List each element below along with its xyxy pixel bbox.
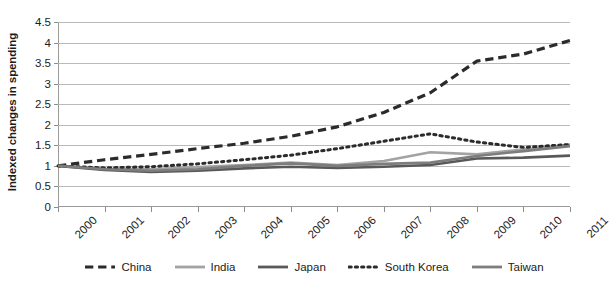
y-axis-tick-label: 0.5 [35,180,51,192]
x-axis-tick [291,207,292,212]
y-axis-tick-label: 3 [45,78,51,90]
y-axis-tick-label: 1 [45,160,51,172]
legend-item-china[interactable]: China [84,261,151,273]
x-axis-tick [384,207,385,212]
y-axis-tick-label: 2 [45,119,51,131]
legend-swatch-solid-icon [174,261,206,273]
legend-swatch-dashed-icon [84,261,116,273]
plot-area: 00.511.522.533.544.5 2000200120022003200… [58,22,570,207]
x-axis-tick [570,207,571,212]
x-axis-tick [151,207,152,212]
y-axis-tick-label: 4.5 [35,16,51,28]
legend-label: China [121,261,151,273]
y-axis-tick-label: 2.5 [35,98,51,110]
x-axis-tick-label: 2008 [445,214,472,241]
x-axis-tick-label: 2002 [166,214,193,241]
cropped-top-text [52,0,92,3]
x-axis-tick-label: 2003 [212,214,239,241]
legend-label: Taiwan [508,261,544,273]
legend-item-south-korea[interactable]: South Korea [348,261,449,273]
x-axis-tick [58,207,59,212]
y-axis-title: Indexed changes in spending [6,12,18,212]
x-axis-tick-label: 2010 [538,214,565,241]
x-axis-tick-label: 2005 [305,214,332,241]
y-axis-tick-label: 0 [45,201,51,213]
x-axis-tick [244,207,245,212]
x-axis-tick [430,207,431,212]
legend-swatch-solid-icon [257,261,289,273]
legend-swatch-solid-icon [471,261,503,273]
legend-label: India [211,261,236,273]
y-axis-tick-label: 1.5 [35,139,51,151]
x-axis-tick-label: 2011 [584,214,610,240]
x-axis-tick [105,207,106,212]
legend-swatch-dotted-icon [348,261,380,273]
x-axis-tick-label: 2007 [398,214,425,241]
x-axis-tick-label: 2000 [72,214,99,241]
x-axis-tick [477,207,478,212]
x-axis-tick [198,207,199,212]
x-axis-tick [337,207,338,212]
y-axis-tick-label: 3.5 [35,57,51,69]
series-line-china [58,41,570,166]
legend-label: Japan [294,261,325,273]
series-lines [58,22,570,207]
chart-legend: ChinaIndiaJapanSouth KoreaTaiwan [58,256,570,278]
x-axis-tick-label: 2001 [119,214,146,241]
x-axis-tick-label: 2004 [259,214,286,241]
x-axis-tick-label: 2009 [491,214,518,241]
legend-item-india[interactable]: India [174,261,236,273]
legend-item-taiwan[interactable]: Taiwan [471,261,544,273]
x-axis-tick-label: 2006 [352,214,379,241]
legend-label: South Korea [385,261,449,273]
x-axis-tick [523,207,524,212]
legend-item-japan[interactable]: Japan [257,261,325,273]
y-axis-tick-label: 4 [45,37,51,49]
